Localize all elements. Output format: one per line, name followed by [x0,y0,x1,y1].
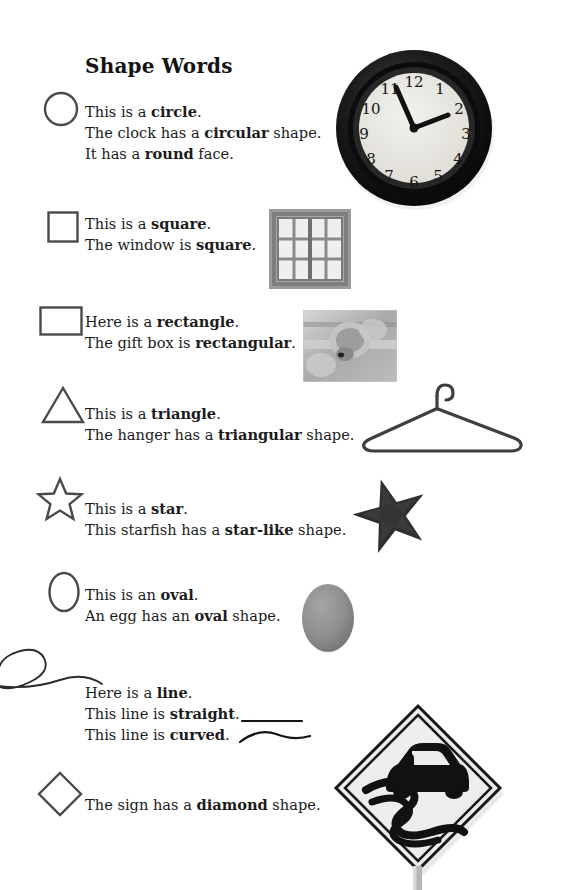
triangle-outline-icon [40,385,86,425]
text-block-oval: This is an oval. An egg has an oval shap… [85,584,281,626]
oval-outline-icon [46,570,82,614]
text-block-rectangle: Here is a rectangle. The gift box is rec… [85,311,296,353]
svg-text:2: 2 [454,100,464,118]
text-block-triangle: This is a triangle. The hanger has a tri… [85,403,354,445]
svg-text:4: 4 [453,150,463,168]
text-line: An egg has an oval shape. [85,605,281,626]
svg-text:12: 12 [404,73,423,91]
text-line: This is a triangle. [85,403,354,424]
text-line: This is an oval. [85,584,281,605]
text-line: The sign has a diamond shape. [85,794,321,815]
svg-text:7: 7 [384,167,394,185]
wall-clock-photo: 12 1 2 3 4 5 6 7 8 9 10 11 [330,42,502,214]
svg-text:10: 10 [361,100,380,118]
egg-photo [297,578,359,654]
text-line: This is a star. [85,498,346,519]
text-line: The hanger has a triangular shape. [85,424,354,445]
svg-text:9: 9 [359,125,369,143]
text-line: This starfish has a star-like shape. [85,519,346,540]
text-line: The window is square. [85,234,256,255]
text-block-line: Here is a line. This line is straight. T… [85,682,240,745]
rectangle-outline-icon [38,305,84,337]
curved-line-sample [238,726,312,752]
circle-outline-icon [42,90,80,128]
svg-text:5: 5 [433,167,443,185]
text-line: The gift box is rectangular. [85,332,296,353]
text-line: The clock has a circular shape. [85,122,321,143]
slippery-road-sign-photo [332,702,514,890]
svg-text:8: 8 [366,150,376,168]
square-outline-icon [46,210,80,244]
text-block-square: This is a square. The window is square. [85,213,256,255]
text-block-diamond: The sign has a diamond shape. [85,794,321,815]
svg-text:1: 1 [435,80,445,98]
window-photo [268,208,352,290]
text-line: This is a circle. [85,101,321,122]
text-line: Here is a rectangle. [85,311,296,332]
clothes-hanger-photo [358,373,528,453]
star-outline-icon [36,476,84,522]
svg-text:3: 3 [461,125,471,143]
gift-box-photo [303,310,397,382]
svg-text:6: 6 [409,173,419,191]
text-line: This is a square. [85,213,256,234]
text-block-star: This is a star. This starfish has a star… [85,498,346,540]
text-line: This line is curved. [85,724,240,745]
diamond-outline-icon [36,770,84,818]
starfish-photo [348,473,434,557]
page-title: Shape Words [85,54,233,78]
text-line: This line is straight. [85,703,240,724]
text-line: It has a round face. [85,143,321,164]
text-block-circle: This is a circle. The clock has a circul… [85,101,321,164]
text-line: Here is a line. [85,682,240,703]
